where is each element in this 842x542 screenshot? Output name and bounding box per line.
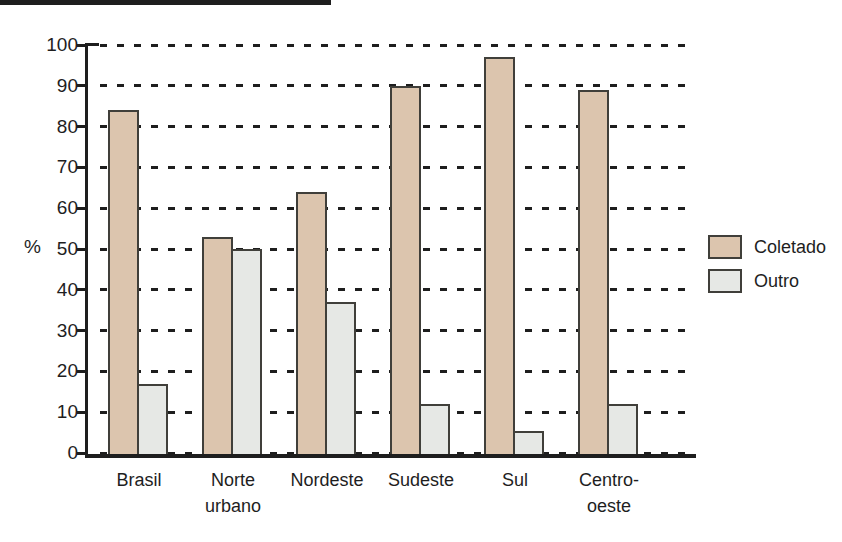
y-tick-label-40: 40 [14, 279, 78, 301]
y-tick-60 [77, 207, 85, 210]
bar-outro-6 [607, 404, 638, 458]
bar-outro-1 [137, 384, 168, 458]
y-tick-0 [77, 452, 85, 455]
y-tick-70 [77, 166, 85, 169]
bar-chart-figure: 0102030405060708090100 % BrasilNorte urb… [0, 0, 842, 542]
scan-edge-artifact [0, 0, 331, 5]
y-tick-80 [77, 125, 85, 128]
bar-outro-2 [231, 249, 262, 458]
bar-coletado-2 [202, 237, 233, 458]
y-tick-label-20: 20 [14, 360, 78, 382]
gridline-100 [100, 44, 693, 47]
y-tick-30 [77, 329, 85, 332]
y-tick-label-30: 30 [14, 320, 78, 342]
x-category-label-6: Centro- oeste [544, 467, 674, 519]
bar-coletado-3 [296, 192, 327, 458]
y-tick-label-80: 80 [14, 116, 78, 138]
bar-coletado-6 [578, 90, 609, 458]
y-tick-label-60: 60 [14, 197, 78, 219]
bar-coletado-5 [484, 57, 515, 458]
bar-coletado-4 [390, 86, 421, 458]
x-axis-line [85, 454, 696, 458]
bar-outro-4 [419, 404, 450, 458]
bar-outro-3 [325, 302, 356, 458]
plot-area [88, 45, 695, 458]
y-tick-label-10: 10 [14, 401, 78, 423]
legend: ColetadoOutro [708, 235, 826, 293]
bar-coletado-1 [108, 110, 139, 458]
y-tick-90 [77, 84, 85, 87]
y-tick-label-100: 100 [14, 34, 78, 56]
y-axis-unit-label: % [24, 236, 41, 258]
y-tick-label-0: 0 [14, 442, 78, 464]
y-tick-20 [77, 370, 85, 373]
y-tick-label-70: 70 [14, 156, 78, 178]
y-tick-label-90: 90 [14, 75, 78, 97]
y-tick-100 [77, 44, 85, 47]
y-axis-line [85, 43, 88, 458]
y-tick-10 [77, 411, 85, 414]
legend-item-outro: Outro [708, 269, 826, 293]
legend-swatch-coletado [708, 235, 742, 259]
legend-label-coletado: Coletado [754, 237, 826, 258]
legend-label-outro: Outro [754, 271, 799, 292]
legend-swatch-outro [708, 269, 742, 293]
y-axis-top-cap [85, 43, 99, 46]
y-tick-50 [77, 248, 85, 251]
legend-item-coletado: Coletado [708, 235, 826, 259]
y-tick-40 [77, 288, 85, 291]
